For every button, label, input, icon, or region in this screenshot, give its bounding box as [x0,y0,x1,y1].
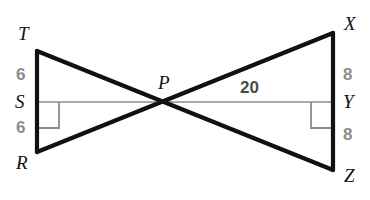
vertex-label-R: R [16,153,28,172]
measure-label-PY: 20 [240,79,259,96]
measure-label-TS: 6 [16,66,25,83]
segment-TZ [37,51,333,170]
vertex-label-Y: Y [343,92,354,111]
measure-label-SR: 6 [16,119,25,136]
measure-label-XY: 8 [343,66,352,83]
vertex-label-P: P [158,73,170,92]
vertex-label-T: T [18,24,29,43]
geometry-figure: T S R P X Y Z 6 6 8 8 20 [0,0,370,200]
measure-label-YZ: 8 [343,126,352,143]
vertex-label-Z: Z [344,166,355,185]
vertex-label-X: X [344,14,356,33]
segment-RX [37,33,333,152]
right-angle-Y [311,102,333,128]
vertex-label-S: S [15,92,25,111]
right-angle-S [37,102,59,128]
geometry-canvas [0,0,370,200]
